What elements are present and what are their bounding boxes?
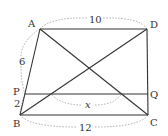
figure-lines bbox=[20, 29, 148, 115]
measure-ad: 10 bbox=[89, 14, 102, 25]
side-dc bbox=[147, 29, 148, 115]
measure-bc: 12 bbox=[79, 122, 92, 133]
side-ab bbox=[20, 29, 40, 115]
trapezoid-diagram: A D B C P Q 10 6 2 x 12 bbox=[0, 0, 168, 136]
label-q: Q bbox=[150, 89, 158, 100]
label-d: D bbox=[150, 19, 158, 30]
label-p: P bbox=[13, 86, 20, 97]
diagonal-ac bbox=[40, 29, 148, 115]
diagonal-db bbox=[20, 29, 147, 115]
label-a: A bbox=[27, 18, 36, 29]
label-c: C bbox=[150, 117, 158, 128]
vertex-labels: A D B C P Q bbox=[13, 18, 158, 129]
label-b: B bbox=[13, 118, 20, 129]
measure-pb: 2 bbox=[14, 98, 20, 109]
measure-x: x bbox=[85, 99, 91, 110]
measure-ap: 6 bbox=[19, 56, 25, 67]
